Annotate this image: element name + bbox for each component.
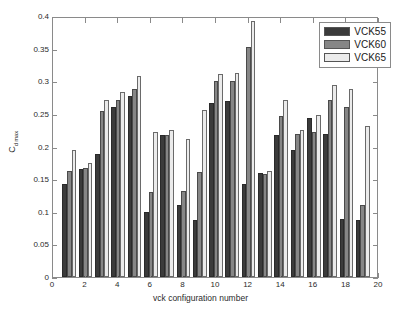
y-tick-mark: [52, 213, 57, 214]
x-tick-mark: [280, 273, 281, 278]
y-tick-label-0.05: 0.05: [33, 241, 49, 249]
x-tick-label-4: 4: [107, 281, 127, 289]
x-tick-label-2: 2: [75, 281, 95, 289]
bar-vck65-config-16: [316, 115, 321, 277]
bar-vck65-config-2: [88, 163, 93, 277]
chart-figure: 00.050.10.150.20.250.30.350.4 Cd max 024…: [0, 0, 401, 321]
y-tick-mark-right: [373, 213, 378, 214]
x-tick-label-12: 12: [238, 281, 258, 289]
bar-vck65-config-18: [349, 89, 354, 277]
y-tick-mark: [52, 82, 57, 83]
y-tick-label-0.35: 0.35: [33, 46, 49, 54]
legend-swatch-vck55: [324, 27, 350, 36]
x-tick-mark: [215, 273, 216, 278]
x-tick-mark: [182, 273, 183, 278]
bar-vck65-config-11: [235, 73, 240, 277]
bar-vck65-config-9: [202, 110, 207, 277]
y-tick-label-0.3: 0.3: [38, 78, 49, 86]
x-tick-mark-top: [280, 18, 281, 23]
bar-vck65-config-5: [137, 76, 142, 277]
y-axis-title-base: C: [7, 146, 17, 153]
bar-vck65-config-10: [218, 74, 223, 277]
y-tick-mark-right: [373, 148, 378, 149]
bar-vck65-config-4: [120, 92, 125, 277]
y-tick-mark: [52, 115, 57, 116]
legend-item-vck65[interactable]: VCK65: [324, 51, 386, 64]
bar-vck65-config-14: [283, 100, 288, 277]
y-tick-mark-right: [373, 180, 378, 181]
x-tick-label-6: 6: [140, 281, 160, 289]
x-tick-label-8: 8: [172, 281, 192, 289]
y-tick-mark: [52, 180, 57, 181]
y-tick-mark-right: [373, 82, 378, 83]
bar-vck65-config-6: [153, 132, 158, 277]
bar-vck65-config-15: [300, 130, 305, 277]
legend-label-vck65: VCK65: [354, 53, 386, 63]
y-tick-label-0.4: 0.4: [38, 13, 49, 21]
x-tick-mark-top: [52, 18, 53, 23]
bar-vck65-config-12: [251, 21, 256, 277]
bar-vck65-config-3: [104, 100, 109, 277]
y-axis-title: Cd max: [7, 112, 19, 172]
x-tick-mark: [378, 273, 379, 278]
x-tick-label-18: 18: [335, 281, 355, 289]
x-tick-mark-top: [182, 18, 183, 23]
x-tick-mark-top: [215, 18, 216, 23]
y-axis-title-subscript: d max: [13, 131, 19, 146]
x-tick-mark: [313, 273, 314, 278]
x-tick-mark: [248, 273, 249, 278]
x-tick-label-16: 16: [303, 281, 323, 289]
bar-vck65-config-17: [332, 85, 337, 277]
x-tick-mark: [52, 273, 53, 278]
x-tick-mark: [150, 273, 151, 278]
x-tick-mark: [117, 273, 118, 278]
bar-vck65-config-8: [186, 139, 191, 277]
y-tick-mark-right: [373, 278, 378, 279]
legend-swatch-vck65: [324, 53, 350, 62]
y-tick-mark-right: [373, 115, 378, 116]
legend-swatch-vck60: [324, 40, 350, 49]
y-tick-mark: [52, 245, 57, 246]
y-tick-mark: [52, 148, 57, 149]
chart-legend: VCK55VCK60VCK65: [319, 22, 391, 68]
legend-item-vck60[interactable]: VCK60: [324, 38, 386, 51]
y-tick-label-0.25: 0.25: [33, 111, 49, 119]
x-tick-mark-top: [150, 18, 151, 23]
bar-vck65-config-19: [365, 126, 370, 277]
legend-label-vck60: VCK60: [354, 40, 386, 50]
x-tick-mark-top: [85, 18, 86, 23]
y-tick-label-0.15: 0.15: [33, 176, 49, 184]
legend-item-vck55[interactable]: VCK55: [324, 25, 386, 38]
bar-vck65-config-7: [169, 130, 174, 277]
x-tick-mark-top: [117, 18, 118, 23]
y-tick-label-0.2: 0.2: [38, 144, 49, 152]
x-tick-mark: [85, 273, 86, 278]
bar-vck65-config-1: [72, 150, 77, 277]
x-tick-label-0: 0: [42, 281, 62, 289]
y-tick-mark: [52, 50, 57, 51]
y-tick-mark: [52, 278, 57, 279]
x-tick-mark-top: [313, 18, 314, 23]
x-tick-mark: [345, 273, 346, 278]
bar-vck65-config-13: [267, 171, 272, 277]
x-tick-label-10: 10: [205, 281, 225, 289]
x-tick-mark-top: [248, 18, 249, 23]
x-tick-label-14: 14: [270, 281, 290, 289]
legend-label-vck55: VCK55: [354, 27, 386, 37]
y-tick-label-0.1: 0.1: [38, 209, 49, 217]
y-tick-mark-right: [373, 245, 378, 246]
x-tick-label-20: 20: [368, 281, 388, 289]
x-axis-title: vck configuration number: [0, 293, 401, 303]
